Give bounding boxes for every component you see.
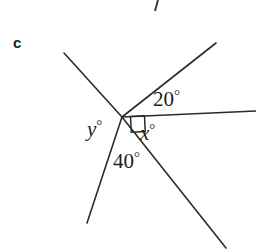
partial-line-fragment-top <box>155 0 158 11</box>
degree-symbol-icon: ° <box>134 149 140 165</box>
geometry-figure-container: c 20° x° y° 40° <box>0 0 256 250</box>
degree-symbol-icon: ° <box>174 87 180 103</box>
angle-label-x-degrees: x° <box>140 122 155 144</box>
angle-label-40-degrees: 40° <box>113 150 140 172</box>
angle-40-value: 40 <box>113 149 134 173</box>
angle-x-value: x <box>140 121 149 145</box>
geometry-diagram-canvas <box>0 0 256 250</box>
degree-symbol-icon: ° <box>96 117 102 133</box>
part-label-c: c <box>13 35 21 50</box>
angle-y-value: y <box>87 117 96 141</box>
degree-symbol-icon: ° <box>149 121 155 137</box>
upper-left-ray <box>64 53 122 117</box>
angle-label-20-degrees: 20° <box>153 88 180 110</box>
lower-right-ray <box>122 117 226 248</box>
angle-20-value: 20 <box>153 87 174 111</box>
angle-label-y-degrees: y° <box>87 118 102 140</box>
